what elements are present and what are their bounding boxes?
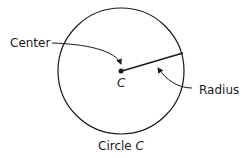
point-c-label: C (117, 77, 125, 89)
center-point (119, 69, 124, 74)
circle-diagram (0, 0, 251, 158)
circle-caption: Circle C (98, 140, 144, 152)
radius-arrow (158, 68, 192, 88)
radius-segment (122, 53, 183, 71)
caption-variable: C (136, 139, 144, 153)
radius-label: Radius (199, 84, 239, 96)
center-arrow (52, 43, 121, 64)
caption-text: Circle (98, 139, 136, 153)
center-label: Center (10, 37, 50, 49)
